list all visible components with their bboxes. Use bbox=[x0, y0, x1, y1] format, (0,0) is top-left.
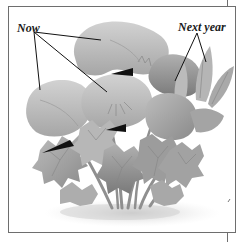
plant-illustration bbox=[0, 0, 247, 242]
illustration-canvas: Now Next year bbox=[0, 0, 247, 242]
label-now: Now bbox=[17, 22, 40, 34]
label-next-year: Next year bbox=[178, 21, 226, 33]
